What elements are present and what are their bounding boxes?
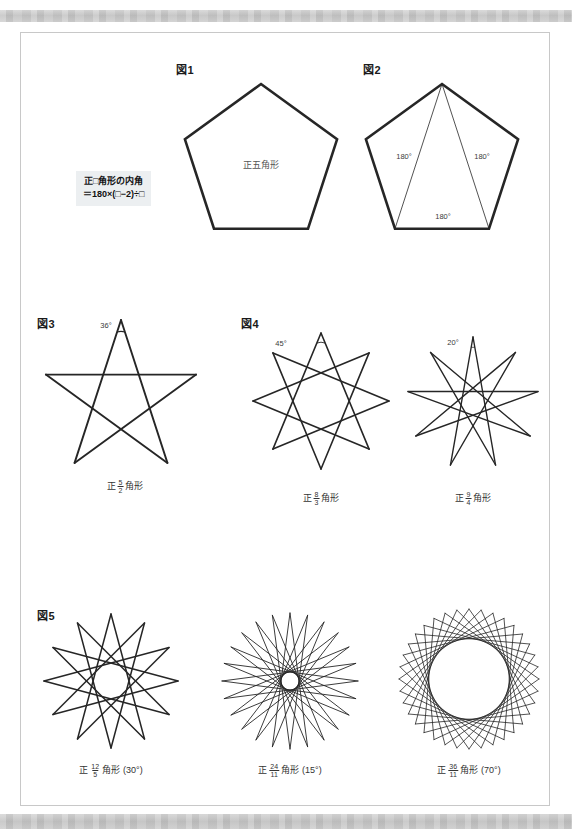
star-chord — [75, 375, 197, 463]
star-chord — [416, 392, 538, 436]
caption-prefix: 正 — [455, 494, 464, 503]
star-chord — [445, 679, 539, 745]
pentagon-outline — [366, 84, 518, 229]
star-chord — [400, 667, 481, 748]
figure-caption: 正125角形(30°) — [79, 763, 142, 778]
caption-fraction: 2411 — [269, 763, 279, 778]
fraction-numerator: 24 — [269, 763, 279, 770]
vertex-angle-label: 36° — [100, 321, 111, 330]
caption-prefix: 正 — [258, 766, 267, 775]
figure-shape-4 — [393, 323, 553, 483]
fraction-numerator: 9 — [466, 491, 472, 498]
fraction-denominator: 11 — [270, 770, 279, 778]
figure-caption: 正52角形 — [107, 479, 144, 494]
angle-label: 180° — [474, 152, 490, 161]
caption-suffix: 角形 — [125, 482, 143, 491]
angle-arc — [317, 342, 325, 343]
fraction-denominator: 11 — [449, 770, 458, 778]
fraction-denominator: 4 — [466, 498, 472, 506]
star-chord — [431, 352, 531, 436]
bottom-decorative-band — [0, 814, 572, 829]
figure-shape-図5 — [30, 600, 192, 762]
caption-fraction: 94 — [466, 491, 472, 506]
formula-line-2: ＝180×(□−2)÷□ — [83, 188, 144, 201]
vertex-angle-label: 20° — [447, 338, 458, 347]
angle-arc — [117, 331, 125, 332]
fraction-denominator: 5 — [92, 770, 98, 778]
caption-fraction: 83 — [314, 491, 320, 506]
figure-shape-図3 — [28, 306, 214, 492]
polygon-inner-label: 正五角形 — [243, 158, 279, 171]
caption-fraction: 125 — [90, 763, 100, 778]
caption-note: (15°) — [302, 766, 322, 775]
star-chord — [75, 320, 121, 463]
figure-shape-7 — [385, 595, 553, 763]
fraction-numerator: 8 — [314, 491, 320, 498]
figure-caption: 正83角形 — [303, 491, 340, 506]
fraction-numerator: 12 — [90, 763, 100, 770]
formula-line-1: 正□角形の内角 — [83, 175, 144, 188]
angle-label: 180° — [396, 152, 412, 161]
caption-suffix: 角形 — [473, 494, 491, 503]
caption-suffix: 角形 — [460, 766, 478, 775]
vertex-angle-label: 45° — [275, 339, 286, 348]
figure-shape-図2 — [348, 70, 536, 258]
caption-suffix: 角形 — [321, 494, 339, 503]
star-chord — [403, 609, 469, 703]
figure-caption: 正94角形 — [455, 491, 492, 506]
figure-shape-図4 — [239, 319, 403, 483]
fraction-numerator: 5 — [118, 479, 124, 486]
worksheet-page: 正□角形の内角 ＝180×(□−2)÷□ 図1正五角形図2180°180°180… — [20, 32, 550, 806]
caption-prefix: 正 — [79, 766, 88, 775]
figure-caption: 正3611角形(70°) — [437, 763, 500, 778]
caption-prefix: 正 — [107, 482, 116, 491]
fraction-numerator: 36 — [448, 763, 458, 770]
caption-prefix: 正 — [303, 494, 312, 503]
star-chord — [408, 392, 530, 436]
top-decorative-band — [0, 10, 572, 22]
star-chord — [416, 352, 516, 436]
angle-label: 180° — [435, 212, 451, 221]
figure-caption: 正2411角形(15°) — [258, 763, 321, 778]
caption-fraction: 3611 — [448, 763, 458, 778]
pentagon-outline — [185, 84, 337, 229]
star-chord — [121, 320, 167, 463]
caption-note: (30°) — [123, 766, 143, 775]
caption-prefix: 正 — [437, 766, 446, 775]
caption-note: (70°) — [481, 766, 501, 775]
caption-fraction: 52 — [118, 479, 124, 494]
fraction-denominator: 2 — [118, 486, 124, 494]
figure-shape-6 — [208, 599, 372, 763]
fraction-denominator: 3 — [314, 498, 320, 506]
caption-suffix: 角形 — [102, 766, 120, 775]
caption-suffix: 角形 — [281, 766, 299, 775]
star-chord — [46, 375, 168, 463]
interior-angle-formula-box: 正□角形の内角 ＝180×(□−2)÷□ — [76, 171, 151, 206]
